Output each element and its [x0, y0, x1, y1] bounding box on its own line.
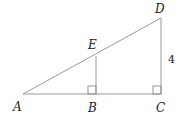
- segment-ad: [23, 18, 161, 94]
- label-e: E: [87, 38, 97, 52]
- measurement-dc: 4: [168, 53, 175, 66]
- right-angle-marker-c: [153, 86, 161, 94]
- label-a: A: [12, 100, 22, 114]
- right-angle-marker-b: [88, 86, 96, 94]
- label-c: C: [156, 101, 165, 115]
- label-b: B: [87, 101, 97, 115]
- label-d: D: [154, 2, 165, 16]
- triangle-diagram: A B C D E 4: [0, 0, 181, 119]
